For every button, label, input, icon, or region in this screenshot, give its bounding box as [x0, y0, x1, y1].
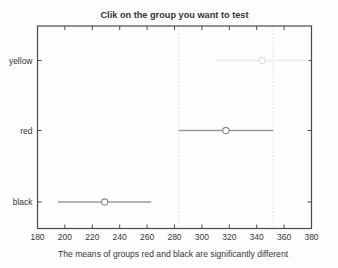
x-tick-label: 300	[195, 232, 209, 242]
plot-area: Clik on the group you want to test The m…	[0, 0, 338, 268]
group-marker-red[interactable]	[223, 127, 229, 133]
x-tick-label: 180	[30, 232, 44, 242]
caption: The means of groups red and black are si…	[58, 249, 289, 259]
x-tick-label: 280	[167, 232, 181, 242]
x-tick-label: 380	[304, 232, 318, 242]
group-marker-black[interactable]	[102, 199, 108, 205]
x-tick-label: 360	[277, 232, 291, 242]
figure-window: Clik on the group you want to test The m…	[0, 0, 338, 268]
x-tick-label: 240	[113, 232, 127, 242]
ytick-label-yellow: yellow	[9, 56, 33, 66]
x-tick-label: 200	[58, 232, 72, 242]
chart-title: Clik on the group you want to test	[100, 10, 248, 20]
x-tick-label: 260	[140, 232, 154, 242]
plot-box	[38, 26, 312, 229]
ytick-label-black: black	[13, 197, 34, 207]
x-tick-label: 340	[250, 232, 264, 242]
x-tick-label: 220	[85, 232, 99, 242]
group-marker-yellow[interactable]	[259, 57, 265, 63]
x-tick-label: 320	[222, 232, 236, 242]
ytick-label-red: red	[20, 126, 33, 136]
